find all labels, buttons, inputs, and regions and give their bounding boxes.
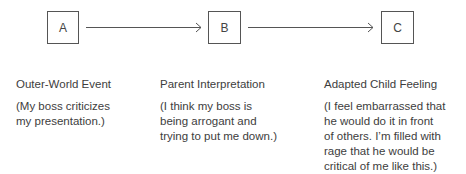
node-c-label: C [393,21,402,35]
node-a-caption: Outer-World Event (My boss criticizes my… [16,77,156,129]
node-c-title: Adapted Child Feeling [324,77,466,92]
node-b-label: B [220,21,228,35]
node-c-description: (I feel embarrassed that he would do it … [324,99,466,174]
node-a-box: A [47,11,79,44]
node-a-description: (My boss criticizes my presentation.) [16,99,156,129]
node-b-title: Parent Interpretation [160,77,310,92]
node-c-caption: Adapted Child Feeling (I feel embarrasse… [324,77,466,174]
node-b-caption: Parent Interpretation (I think my boss i… [160,77,310,144]
node-c-box: C [381,11,414,44]
node-b-box: B [208,11,241,44]
node-a-title: Outer-World Event [16,77,156,92]
node-b-description: (I think my boss is being arrogant and t… [160,99,310,144]
node-a-label: A [59,21,67,35]
